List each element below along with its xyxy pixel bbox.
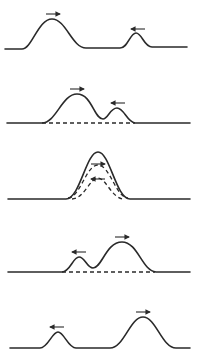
string-with-combined-pulse [8,152,190,199]
dashed-component-pulse-right [68,165,128,198]
panel-full-overlap [8,152,190,199]
wave-superposition-diagram [0,0,201,360]
panel-before-overlap [5,14,187,49]
string-with-pulses [8,242,190,272]
string-with-pulses [7,94,190,123]
string-with-pulses [5,19,187,49]
string-with-pulses [10,317,190,348]
panel-beginning-overlap [7,89,190,123]
panel-separating [8,237,190,272]
panel-after-passing [10,312,190,348]
